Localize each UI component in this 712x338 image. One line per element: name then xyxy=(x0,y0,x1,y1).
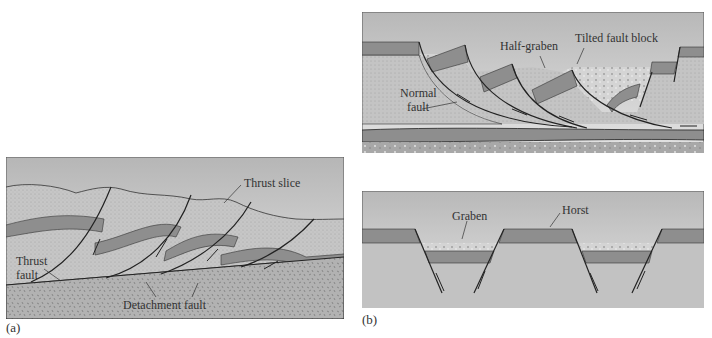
label-normal-fault-line1: Normal xyxy=(400,86,437,100)
horst-graben-illustration: Graben Horst xyxy=(362,191,704,308)
panel-b-bottom-diagram: Graben Horst xyxy=(362,191,704,308)
panel-b-tag: (b) xyxy=(362,312,377,328)
label-half-graben: Half-graben xyxy=(500,39,558,53)
panel-b-top-diagram: Half-graben Tilted fault block Normal fa… xyxy=(362,12,704,153)
label-detachment-fault: Detachment fault xyxy=(123,298,207,312)
label-horst: Horst xyxy=(562,203,589,217)
label-thrust-fault-line1: Thrust xyxy=(16,254,48,268)
label-tilted-fault-block: Tilted fault block xyxy=(575,31,658,45)
panel-a-tag: (a) xyxy=(6,320,20,336)
label-normal-fault-line2: fault xyxy=(407,100,430,114)
label-graben: Graben xyxy=(452,209,487,223)
panel-a-thrust-diagram: Thrust slice Thrust fault Detachment fau… xyxy=(6,157,344,319)
label-thrust-slice: Thrust slice xyxy=(244,176,300,190)
tilted-fault-block-illustration: Half-graben Tilted fault block Normal fa… xyxy=(362,12,704,153)
label-thrust-fault-line2: fault xyxy=(16,268,39,282)
thrust-fault-illustration: Thrust slice Thrust fault Detachment fau… xyxy=(6,157,344,319)
